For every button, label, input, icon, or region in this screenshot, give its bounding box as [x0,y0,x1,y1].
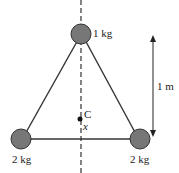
height-label: 1 m [157,80,174,92]
mass-right [130,129,150,149]
rod-left [24,38,79,136]
mass-left [11,129,31,149]
center-of-mass-dot [78,117,83,122]
rod-right [84,38,137,136]
mass-right-label: 2 kg [130,153,149,165]
center-label: C [84,108,91,120]
distance-label: x [83,120,88,132]
arrow-head-down [150,130,156,137]
mass-left-label: 2 kg [12,153,31,165]
arrow-head-up [150,35,156,42]
triangle-diagram [0,0,179,173]
mass-top-label: 1 kg [93,27,112,39]
mass-top [71,24,91,44]
